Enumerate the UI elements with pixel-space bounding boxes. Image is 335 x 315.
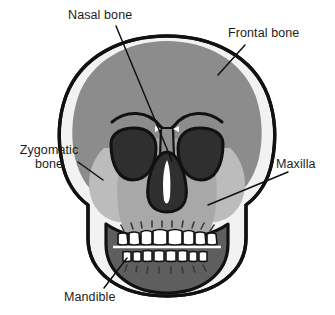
label-mandible: Mandible (64, 290, 116, 304)
tooth-upper (207, 233, 217, 245)
tooth-upper (118, 233, 128, 245)
tooth-lower (189, 252, 197, 262)
tooth-upper (141, 231, 152, 246)
tooth-upper (153, 230, 167, 246)
tooth-lower (166, 251, 176, 262)
tooth-lower (154, 251, 164, 262)
tooth-upper (183, 231, 194, 246)
tooth-lower (199, 252, 207, 262)
tooth-lower (123, 252, 131, 262)
tooth-lower (143, 251, 152, 262)
tooth-upper (195, 232, 206, 245)
upper-teeth-row (118, 230, 217, 246)
tooth-lower (133, 252, 141, 262)
label-nasal-bone: Nasal bone (68, 8, 132, 22)
label-zygomatic-bone: Zygomaticbone (6, 143, 92, 171)
label-maxilla: Maxilla (276, 157, 316, 171)
label-frontal-bone: Frontal bone (228, 26, 299, 40)
tooth-upper (168, 230, 182, 246)
skull-diagram-canvas: Nasal bone Frontal bone Zygomaticbone Ma… (0, 0, 335, 315)
label-zygomatic-bone-line2: bone (35, 157, 63, 171)
tooth-lower (178, 251, 187, 262)
tooth-upper (129, 232, 140, 245)
label-zygomatic-bone-line1: Zygomatic (20, 143, 79, 157)
